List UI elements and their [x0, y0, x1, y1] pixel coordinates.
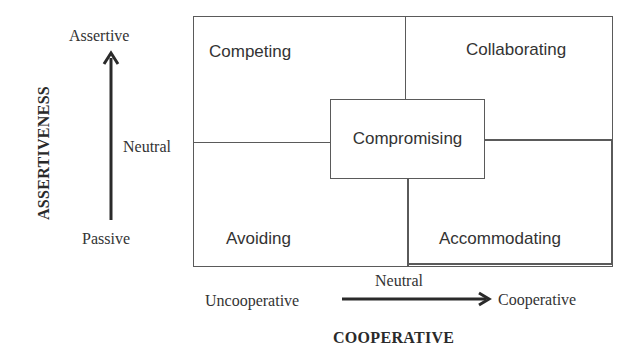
quadrant-collaborating: Collaborating	[466, 40, 566, 60]
quadrant-accommodating: Accommodating	[439, 229, 561, 249]
grid-vertical-divider-bottom	[407, 178, 409, 267]
compromising-box: Compromising	[330, 99, 485, 179]
x-axis-middle-label: Neutral	[375, 272, 423, 290]
accommodating-bottom-border	[407, 263, 613, 265]
grid-vertical-divider-top	[405, 16, 406, 100]
quadrant-compromising: Compromising	[353, 129, 463, 149]
arrow-up-icon	[100, 50, 124, 225]
grid-horizontal-divider-left	[193, 142, 331, 143]
y-axis-top-label: Assertive	[69, 27, 129, 45]
y-axis-bottom-label: Passive	[82, 230, 130, 248]
x-axis-title: COOPERATIVE	[333, 329, 454, 347]
accommodating-right-border	[611, 139, 613, 265]
y-axis-middle-label: Neutral	[123, 138, 171, 156]
arrow-right-icon	[340, 290, 495, 308]
x-axis-right-label: Cooperative	[498, 291, 576, 309]
x-axis-left-label: Uncooperative	[205, 292, 299, 310]
quadrant-avoiding: Avoiding	[226, 229, 291, 249]
quadrant-competing: Competing	[209, 42, 291, 62]
grid-horizontal-divider-right	[484, 139, 613, 141]
y-axis-title: ASSERTIVENESS	[35, 86, 53, 220]
